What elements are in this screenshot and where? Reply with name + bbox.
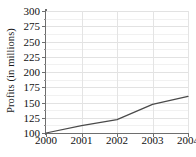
y-tick-label: 225 bbox=[24, 51, 41, 62]
x-tick-label: 2000 bbox=[35, 135, 57, 146]
plot-area: 100125150175200225250275300 200020012002… bbox=[46, 11, 188, 133]
x-tick-label: 2001 bbox=[71, 135, 93, 146]
y-tick-label: 300 bbox=[24, 6, 41, 17]
y-tick-label: 275 bbox=[24, 21, 41, 32]
data-series-line bbox=[46, 11, 188, 133]
profits-line-path bbox=[46, 96, 188, 133]
gridline-vertical bbox=[188, 11, 189, 133]
line-chart-figure: Profits (in millions) 100125150175200225… bbox=[0, 0, 196, 157]
x-tick-label: 2002 bbox=[106, 135, 128, 146]
y-axis-title: Profits (in millions) bbox=[0, 0, 20, 140]
y-tick-label: 250 bbox=[24, 36, 41, 47]
y-axis-title-text: Profits (in millions) bbox=[5, 28, 16, 113]
y-tick-label: 150 bbox=[24, 97, 41, 108]
x-tick-label: 2004 bbox=[177, 135, 196, 146]
y-tick-label: 175 bbox=[24, 82, 41, 93]
y-tick-label: 200 bbox=[24, 67, 41, 78]
x-tick-label: 2003 bbox=[142, 135, 164, 146]
y-tick-label: 125 bbox=[24, 112, 41, 123]
